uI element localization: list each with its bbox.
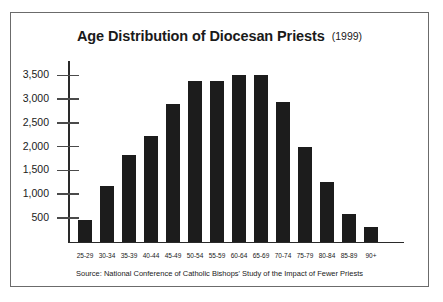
bar [320,182,334,241]
bar [122,155,136,242]
bar-slot [338,61,360,242]
bar-slot [162,61,184,242]
bar-slot [360,61,382,242]
x-axis-tick-label: 65-69 [250,251,272,261]
plot-area: 5001,0001,5002,0002,5003,0003,500 [68,61,404,243]
x-axis-tick-label: 85-89 [338,251,360,261]
bar [364,227,378,241]
y-axis-tick-label: 1,000 [23,187,49,200]
chart-figure-frame: Age Distribution of Diocesan Priests(199… [10,12,429,287]
bar-slot [140,61,162,242]
page-title: Age Distribution of Diocesan Priests [77,28,325,44]
x-axis-tick-label: 45-49 [162,251,184,261]
y-axis-line [68,61,70,243]
bar [166,104,180,241]
bar [144,136,158,242]
x-axis-labels: 25-2930-3435-3940-4445-4950-5455-5960-64… [74,251,404,263]
y-axis-tick-label: 500 [31,211,49,224]
bar-slot [96,61,118,242]
source-note: Source: National Conference of Catholic … [11,269,428,278]
y-axis-tick-label: 2,500 [23,116,49,129]
x-axis-tick-label: 25-29 [74,251,96,261]
x-axis-tick-label: 80-84 [316,251,338,261]
bar [276,102,290,241]
x-axis-tick-label: 70-74 [272,251,294,261]
x-axis-tick-label: 55-59 [206,251,228,261]
x-axis-tick-label: 50-54 [184,251,206,261]
x-axis-tick-label: 75-79 [294,251,316,261]
y-axis-tick-label: 3,500 [23,68,49,81]
chart-title-row: Age Distribution of Diocesan Priests(199… [11,27,428,45]
bar [188,81,202,242]
bar-slot [184,61,206,242]
x-axis-tick-label: 60-64 [228,251,250,261]
y-axis-tick-label: 2,000 [23,140,49,153]
bar-slot [206,61,228,242]
x-axis-tick-label: 90+ [360,251,382,261]
x-axis-line [68,242,404,244]
bar [298,147,312,242]
bar [210,81,224,241]
bar-slot [316,61,338,242]
bar [232,75,246,242]
chart-year-label: (1999) [332,30,362,42]
bar [78,220,92,241]
bar [342,214,356,241]
bar-slot [228,61,250,242]
y-axis-tick-label: 3,000 [23,92,49,105]
bar [254,75,268,241]
x-axis-tick-label: 30-34 [96,251,118,261]
bar [100,186,114,242]
bar-series [74,61,404,242]
x-axis-tick-label: 35-39 [118,251,140,261]
bar-slot [272,61,294,242]
x-axis-tick-label: 40-44 [140,251,162,261]
bar-slot [74,61,96,242]
y-axis-tick-label: 1,500 [23,163,49,176]
bar-slot [294,61,316,242]
bar-slot [250,61,272,242]
bar-slot [118,61,140,242]
